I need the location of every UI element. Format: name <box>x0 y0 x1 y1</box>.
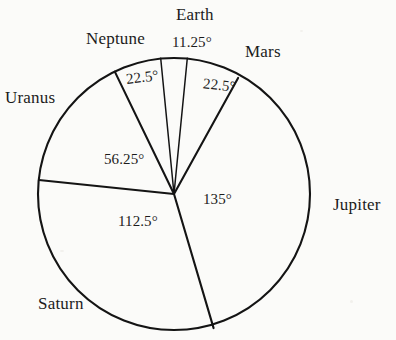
slice-angle-saturn: 112.5° <box>118 214 158 229</box>
slice-label-uranus: Uranus <box>5 89 55 106</box>
slice-angle-jupiter: 135° <box>203 192 232 207</box>
scan-speck <box>350 300 353 303</box>
slice-label-mars: Mars <box>245 43 281 60</box>
pie-chart-graphic <box>0 0 396 340</box>
slice-label-neptune: Neptune <box>86 30 145 47</box>
slice-label-jupiter: Jupiter <box>333 196 381 213</box>
pie-chart: Earth Neptune Mars Uranus Jupiter Saturn… <box>0 0 396 340</box>
slice-angle-earth: 11.25° <box>172 35 212 50</box>
scan-speck <box>60 250 64 252</box>
scan-speck <box>300 30 303 32</box>
slice-label-earth: Earth <box>176 6 214 23</box>
slice-label-saturn: Saturn <box>38 295 84 312</box>
slice-angle-uranus: 56.25° <box>104 152 144 167</box>
